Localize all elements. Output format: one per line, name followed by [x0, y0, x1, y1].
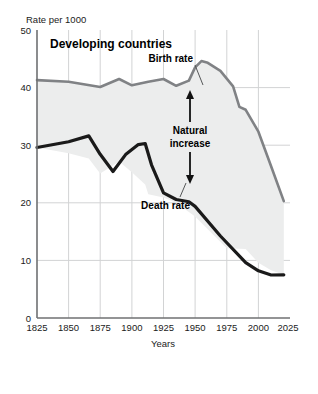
y-tick-20: 20 — [20, 197, 31, 208]
birth-rate-label: Birth rate — [149, 53, 194, 64]
x-tick-2025: 2025 — [277, 322, 298, 333]
x-axis-title: Years — [151, 338, 175, 349]
y-tick-50: 50 — [20, 25, 31, 36]
x-tick-1975: 1975 — [216, 322, 237, 333]
natural-increase-label-line2: increase — [170, 138, 211, 149]
demographic-transition-chart: 0 10 20 30 40 50 1825 1850 1875 1900 192… — [0, 0, 318, 394]
x-tick-1950: 1950 — [185, 322, 206, 333]
y-axis-ticks: 0 10 20 30 40 50 — [20, 25, 31, 324]
x-axis-ticks: 1825 1850 1875 1900 1925 1950 1975 2000 … — [26, 322, 298, 333]
y-tick-30: 30 — [20, 140, 31, 151]
y-tick-10: 10 — [20, 255, 31, 266]
natural-increase-label-line1: Natural — [173, 125, 208, 136]
chart-container: 0 10 20 30 40 50 1825 1850 1875 1900 192… — [0, 0, 318, 394]
y-tick-40: 40 — [20, 82, 31, 93]
x-tick-1825: 1825 — [26, 322, 47, 333]
x-tick-2000: 2000 — [248, 322, 269, 333]
death-rate-label: Death rate — [141, 200, 190, 211]
x-tick-1875: 1875 — [90, 322, 111, 333]
y-axis-title: Rate per 1000 — [26, 14, 86, 25]
x-tick-1900: 1900 — [121, 322, 142, 333]
x-tick-1925: 1925 — [153, 322, 174, 333]
panel-title: Developing countries — [50, 37, 172, 51]
x-tick-1850: 1850 — [58, 322, 79, 333]
